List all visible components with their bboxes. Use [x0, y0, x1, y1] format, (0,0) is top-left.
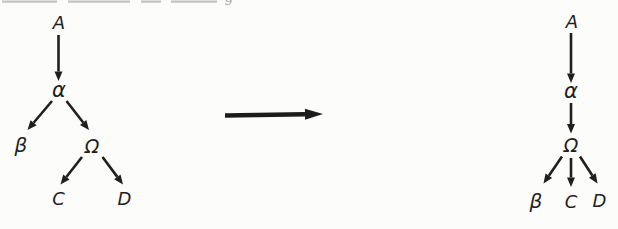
right-tree-node-alpha: α	[564, 79, 578, 103]
arrow-shaft	[225, 114, 305, 115]
right-tree-node-beta: β	[529, 189, 543, 213]
figure-page: gAαβΩCDAαΩβCD	[0, 0, 618, 229]
artifact-dash	[171, 1, 217, 3]
artifact-dash	[2, 1, 57, 3]
right-tree-node-A: A	[565, 11, 578, 32]
left-tree-node-beta: β	[14, 133, 28, 157]
left-tree-node-A: A	[52, 12, 65, 33]
left-tree-node-alpha: α	[52, 78, 66, 102]
left-tree-node-omega: Ω	[84, 135, 100, 157]
artifact-letter-fragment: g	[225, 0, 233, 5]
left-tree-node-D: D	[118, 188, 132, 209]
tree-transformation-diagram: gAαβΩCDAαΩβCD	[0, 0, 618, 229]
artifact-dash	[141, 1, 161, 3]
left-tree-node-C: C	[52, 188, 65, 209]
right-tree-node-omega: Ω	[563, 134, 579, 156]
right-tree-node-D: D	[593, 190, 607, 211]
right-tree-node-C: C	[565, 191, 578, 212]
artifact-dash	[68, 1, 130, 3]
